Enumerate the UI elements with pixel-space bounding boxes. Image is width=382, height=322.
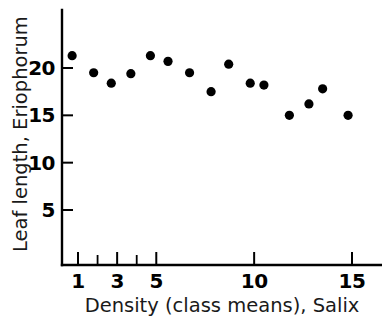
x-axis-tick-labels: 1351015 [71, 269, 365, 293]
data-point [259, 80, 268, 89]
data-point [89, 68, 98, 77]
data-point [107, 79, 116, 88]
scatter-plot-figure: 5101520 1351015 Leaf length, Eriophorum … [0, 0, 382, 322]
y-tick-label-20: 20 [28, 56, 55, 80]
data-point [146, 51, 155, 60]
data-point [343, 111, 352, 120]
y-axis-ticks [62, 68, 73, 210]
data-point [224, 60, 233, 69]
x-tick-label-5: 5 [150, 269, 163, 293]
data-point [163, 57, 172, 66]
data-point [318, 84, 327, 93]
data-point [304, 99, 313, 108]
data-point [285, 111, 294, 120]
x-tick-label-3: 3 [110, 269, 123, 293]
y-tick-label-5: 5 [42, 198, 55, 222]
x-tick-label-15: 15 [339, 269, 366, 293]
y-axis-label: Leaf length, Eriophorum [9, 16, 32, 252]
x-tick-label-1: 1 [71, 269, 84, 293]
y-axis-tick-labels: 5101520 [28, 56, 55, 222]
data-point [185, 68, 194, 77]
data-point [246, 79, 255, 88]
x-axis-ticks [78, 252, 352, 265]
data-point [206, 87, 215, 96]
data-point [126, 69, 135, 78]
y-tick-label-15: 15 [28, 103, 55, 127]
data-points [68, 51, 353, 120]
x-tick-label-10: 10 [241, 269, 268, 293]
plot-canvas: 5101520 1351015 Leaf length, Eriophorum … [0, 0, 382, 322]
axes [62, 10, 382, 265]
data-point [68, 51, 77, 60]
y-tick-label-10: 10 [28, 151, 55, 175]
x-axis-label: Density (class means), Salix [85, 294, 360, 317]
